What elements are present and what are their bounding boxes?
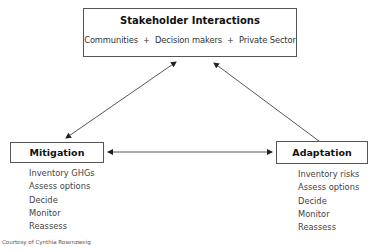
image-credit: Courtesy of Cynthia Rosenzweig	[2, 239, 91, 245]
mitigation-step: Reassess	[29, 220, 95, 233]
adaptation-step: Inventory risks	[298, 168, 359, 181]
mitigation-box: Mitigation	[10, 142, 104, 163]
plus-separator: +	[227, 35, 234, 45]
stakeholder-list: Communities + Decision makers + Private …	[84, 35, 296, 45]
adaptation-steps: Inventory risks Assess options Decide Mo…	[298, 168, 359, 234]
stakeholder-decision-makers: Decision makers	[155, 35, 222, 45]
adaptation-title: Adaptation	[277, 142, 367, 163]
mitigation-step: Inventory GHGs	[29, 167, 95, 180]
adaptation-box: Adaptation	[276, 141, 368, 164]
adaptation-step: Assess options	[298, 181, 359, 194]
stakeholder-title: Stakeholder Interactions	[84, 15, 296, 26]
adaptation-step: Decide	[298, 195, 359, 208]
arrow-stakeholders-adaptation	[214, 63, 327, 147]
stakeholder-interactions-box: Stakeholder Interactions Communities + D…	[83, 8, 297, 57]
adaptation-step: Reassess	[298, 221, 359, 234]
mitigation-step: Decide	[29, 194, 95, 207]
stakeholder-communities: Communities	[84, 35, 138, 45]
mitigation-step: Monitor	[29, 207, 95, 220]
plus-separator: +	[143, 35, 150, 45]
mitigation-step: Assess options	[29, 180, 95, 193]
mitigation-title: Mitigation	[11, 143, 103, 162]
mitigation-steps: Inventory GHGs Assess options Decide Mon…	[29, 167, 95, 233]
stakeholder-private-sector: Private Sector	[239, 35, 296, 45]
arrow-stakeholders-mitigation	[66, 62, 176, 138]
adaptation-step: Monitor	[298, 208, 359, 221]
